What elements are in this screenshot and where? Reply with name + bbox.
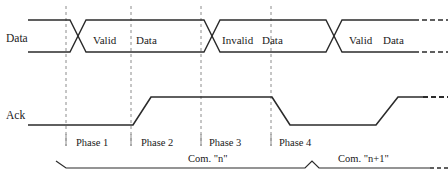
communication-brace — [56, 161, 448, 168]
data-state-data-1: Data — [136, 35, 157, 46]
ack-trace — [28, 97, 423, 125]
data-dashed-continuation — [414, 20, 448, 52]
com-label-n-plus-1: Com. "n+1" — [338, 154, 389, 165]
data-state-data-3: Data — [383, 35, 404, 46]
signal-label-data: Data — [6, 33, 28, 45]
data-state-valid-2: Valid — [349, 35, 372, 46]
signal-label-ack: Ack — [6, 110, 25, 122]
phase-label-4: Phase 4 — [279, 138, 311, 149]
phase-label-2: Phase 2 — [141, 138, 173, 149]
ack-waveform — [28, 97, 423, 125]
com-label-n: Com. "n" — [188, 154, 228, 165]
timing-diagram-canvas — [0, 0, 448, 177]
timing-diagram-screenshot: Data Ack Valid Data Invalid Data Valid D… — [0, 0, 448, 177]
data-state-valid-1: Valid — [93, 35, 116, 46]
data-state-invalid-1: Invalid — [222, 35, 253, 46]
phase-label-1: Phase 1 — [76, 138, 108, 149]
phase-label-3: Phase 3 — [209, 138, 241, 149]
data-state-data-2: Data — [262, 35, 283, 46]
